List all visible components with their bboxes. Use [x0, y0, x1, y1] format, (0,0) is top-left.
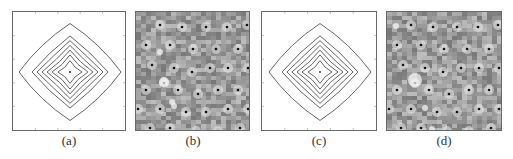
panel-a-contour-plot — [12, 11, 126, 131]
caption-c: (c) — [299, 133, 339, 149]
caption-a: (a) — [49, 133, 89, 149]
contour-lines — [13, 12, 125, 130]
contour-lines — [262, 12, 376, 130]
panel-d-intensity-map — [386, 11, 502, 131]
panel-b-intensity-map — [135, 11, 250, 131]
caption-b: (b) — [173, 133, 213, 149]
intensity-map-dots — [387, 12, 501, 130]
intensity-map-dots — [136, 12, 249, 130]
panel-c-contour-plot — [261, 11, 377, 131]
caption-d: (d) — [424, 133, 464, 149]
